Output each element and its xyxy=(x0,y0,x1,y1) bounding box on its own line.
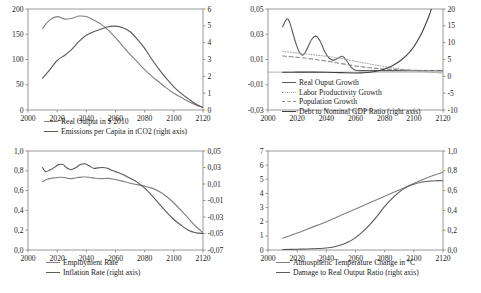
svg-text:2100: 2100 xyxy=(166,254,181,263)
series-line xyxy=(283,181,443,250)
svg-text:0,6: 0,6 xyxy=(448,186,458,195)
chart-panel-bottom-right: 765432101,00,80,60,40,20,020002020204020… xyxy=(240,146,481,293)
svg-text:0,4: 0,4 xyxy=(14,206,24,215)
svg-text:5: 5 xyxy=(260,175,264,184)
svg-text:2: 2 xyxy=(208,72,212,81)
svg-text:0,4: 0,4 xyxy=(448,206,458,215)
legend-item: Emissions per Capita in tCO2 (right axis… xyxy=(44,127,187,137)
svg-text:1,0: 1,0 xyxy=(448,147,458,156)
svg-text:2000: 2000 xyxy=(260,254,275,263)
legend-swatch-dotted xyxy=(282,92,296,93)
legend-item: Population Growth xyxy=(282,97,421,107)
legend-item: Real Output in $ 2010 xyxy=(44,117,187,127)
series-line xyxy=(43,16,203,108)
legend-label: Labor Productivity Growth xyxy=(299,88,382,98)
svg-text:1: 1 xyxy=(208,89,212,98)
legend-label: Real Output in $ 2010 xyxy=(61,117,129,127)
legend-item: Employment Rate xyxy=(46,258,140,268)
svg-text:-0,05: -0,05 xyxy=(208,229,224,238)
svg-text:0,01: 0,01 xyxy=(208,180,221,189)
legend-item: Atmospheric Temperature Change in °C xyxy=(276,258,419,268)
legend-top-left: Real Output in $ 2010Emissions per Capit… xyxy=(44,117,187,136)
legend-swatch-solid xyxy=(44,121,58,122)
svg-text:0,2: 0,2 xyxy=(14,226,24,235)
svg-text:0,8: 0,8 xyxy=(448,166,458,175)
legend-label: Atmospheric Temperature Change in °C xyxy=(293,258,415,268)
svg-text:150: 150 xyxy=(12,30,24,39)
legend-label: Damage to Real Output Ratio (right axis) xyxy=(293,268,419,278)
svg-text:0,2: 0,2 xyxy=(448,226,458,235)
svg-text:10: 10 xyxy=(448,38,456,47)
svg-text:0,05: 0,05 xyxy=(250,5,263,14)
legend-label: Real Ouput Growth xyxy=(299,78,359,88)
svg-text:-0,01: -0,01 xyxy=(208,196,224,205)
legend-swatch-solid xyxy=(44,131,58,132)
legend-label: Population Growth xyxy=(299,97,357,107)
svg-text:7: 7 xyxy=(260,147,264,156)
figure-grid: 0501001502000123456200020202040206020802… xyxy=(0,0,481,293)
chart-panel-top-right: 0,050,030,01-0,01-0,0320151050-5-1020002… xyxy=(240,0,481,146)
svg-text:2120: 2120 xyxy=(435,114,450,123)
legend-item: Debt to Nominal GDP Ratio (right axis) xyxy=(282,107,421,117)
series-line xyxy=(43,177,203,233)
series-line xyxy=(43,164,203,234)
svg-text:2120: 2120 xyxy=(435,254,450,263)
series-line xyxy=(283,51,443,73)
svg-text:0,01: 0,01 xyxy=(250,55,263,64)
svg-text:2120: 2120 xyxy=(195,114,210,123)
legend-swatch-solid xyxy=(282,82,296,83)
svg-text:6: 6 xyxy=(208,5,212,14)
legend-item: Real Ouput Growth xyxy=(282,78,421,88)
legend-label: Debt to Nominal GDP Ratio (right axis) xyxy=(299,107,421,117)
legend-label: Inflation Rate (right axis) xyxy=(63,268,140,278)
svg-text:0,03: 0,03 xyxy=(208,163,221,172)
svg-text:100: 100 xyxy=(12,55,24,64)
svg-text:-0,01: -0,01 xyxy=(248,80,264,89)
legend-swatch-solid xyxy=(46,262,60,263)
svg-text:6: 6 xyxy=(260,161,264,170)
svg-text:1: 1 xyxy=(260,231,264,240)
chart-panel-bottom-left: 1,00,80,60,40,20,00,050,030,01-0,01-0,03… xyxy=(0,146,240,293)
plot-top-right: 0,050,030,01-0,01-0,0320151050-5-1020002… xyxy=(240,0,481,146)
svg-text:0,03: 0,03 xyxy=(250,30,263,39)
svg-text:20: 20 xyxy=(448,5,456,14)
legend-swatch-solid xyxy=(276,262,290,263)
svg-text:2000: 2000 xyxy=(20,254,35,263)
svg-text:200: 200 xyxy=(12,5,24,14)
series-line xyxy=(283,9,432,73)
legend-swatch-solid xyxy=(276,272,290,273)
svg-text:0: 0 xyxy=(448,72,452,81)
svg-text:2120: 2120 xyxy=(195,254,210,263)
legend-swatch-solid xyxy=(282,111,296,112)
svg-text:3: 3 xyxy=(208,55,212,64)
svg-text:0,05: 0,05 xyxy=(208,147,221,156)
svg-text:5: 5 xyxy=(208,21,212,30)
legend-swatch-solid xyxy=(46,272,60,273)
series-line xyxy=(283,56,443,71)
legend-top-right: Real Ouput GrowthLabor Productivity Grow… xyxy=(282,78,421,116)
svg-text:2: 2 xyxy=(260,217,264,226)
svg-text:4: 4 xyxy=(208,38,212,47)
legend-bottom-left: Employment RateInflation Rate (right axi… xyxy=(46,258,140,277)
series-line xyxy=(43,26,203,107)
chart-panel-top-left: 0501001502000123456200020202040206020802… xyxy=(0,0,240,146)
svg-text:-0,03: -0,03 xyxy=(208,213,224,222)
legend-item: Labor Productivity Growth xyxy=(282,88,421,98)
svg-text:1,0: 1,0 xyxy=(14,147,24,156)
svg-text:2000: 2000 xyxy=(20,114,35,123)
legend-label: Employment Rate xyxy=(63,258,118,268)
svg-text:50: 50 xyxy=(16,80,24,89)
svg-text:0,8: 0,8 xyxy=(14,166,24,175)
legend-item: Damage to Real Output Ratio (right axis) xyxy=(276,268,419,278)
svg-text:5: 5 xyxy=(448,55,452,64)
svg-text:4: 4 xyxy=(260,189,264,198)
svg-text:15: 15 xyxy=(448,21,456,30)
svg-text:0,6: 0,6 xyxy=(14,186,24,195)
legend-bottom-right: Atmospheric Temperature Change in °CDama… xyxy=(276,258,419,277)
legend-item: Inflation Rate (right axis) xyxy=(46,268,140,278)
legend-label: Emissions per Capita in tCO2 (right axis… xyxy=(61,127,187,137)
svg-text:2000: 2000 xyxy=(260,114,275,123)
legend-swatch-dashed xyxy=(282,101,296,102)
svg-text:3: 3 xyxy=(260,203,264,212)
svg-text:-5: -5 xyxy=(448,89,455,98)
